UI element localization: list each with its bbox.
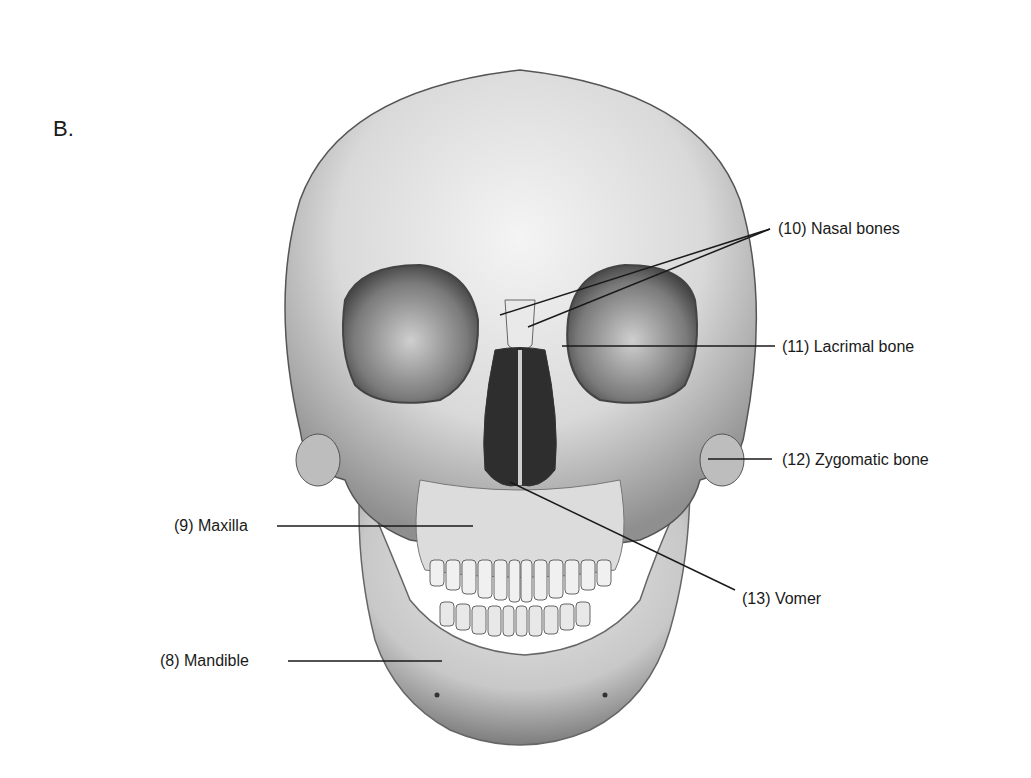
label-mandible: (8) Mandible bbox=[160, 652, 249, 670]
right-orbit bbox=[567, 265, 697, 403]
label-vomer: (13) Vomer bbox=[742, 590, 821, 608]
label-nasal-bones: (10) Nasal bones bbox=[778, 220, 900, 238]
label-zygomatic-bone: (12) Zygomatic bone bbox=[782, 451, 929, 469]
label-maxilla: (9) Maxilla bbox=[174, 517, 248, 535]
lower-teeth bbox=[440, 602, 590, 636]
upper-teeth bbox=[430, 560, 611, 602]
label-lacrimal-bone: (11) Lacrimal bone bbox=[782, 338, 914, 356]
left-orbit bbox=[343, 265, 478, 403]
skull-illustration bbox=[0, 0, 1031, 778]
